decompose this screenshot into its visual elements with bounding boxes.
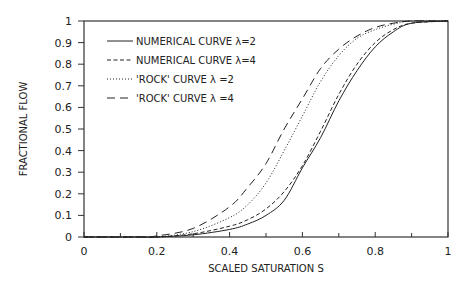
y-tick-label: 0.7 [55,80,73,93]
x-tick-label: 1 [445,245,452,258]
y-tick-label: 0.6 [55,101,73,114]
plot-border [84,21,448,237]
y-axis-label: FRACTIONAL FLOW [18,82,29,177]
fractional-flow-chart: 00.10.20.30.40.50.60.70.80.91 00.20.40.6… [0,0,473,284]
x-axis-ticks: 00.20.40.60.81 [81,232,452,258]
y-tick-label: 0.2 [55,188,73,201]
legend-label: 'ROCK' CURVE λ =4 [136,93,234,104]
y-axis-ticks: 00.10.20.30.40.50.60.70.80.91 [55,15,85,244]
y-tick-label: 0 [65,231,72,244]
x-axis-label: SCALED SATURATION S [208,263,324,274]
legend-label: 'ROCK' CURVE λ =2 [136,74,234,85]
legend: NUMERICAL CURVE λ=2NUMERICAL CURVE λ=4'R… [107,36,256,104]
plot-frame [84,21,448,237]
y-tick-label: 1 [65,15,72,28]
curves [84,21,448,238]
y-tick-label: 0.5 [55,123,73,136]
y-tick-label: 0.1 [55,209,73,222]
y-tick-label: 0.9 [55,37,73,50]
x-tick-label: 0.8 [366,245,384,258]
curve-solid [84,21,448,237]
y-tick-label: 0.4 [55,145,73,158]
curve-dotted [84,21,448,238]
legend-label: NUMERICAL CURVE λ=4 [136,55,256,66]
y-tick-label: 0.8 [55,58,73,71]
x-tick-label: 0.4 [221,245,239,258]
y-tick-label: 0.3 [55,166,73,179]
curve-short-dash [84,21,448,237]
legend-label: NUMERICAL CURVE λ=2 [136,36,256,47]
x-tick-label: 0.2 [148,245,166,258]
x-tick-label: 0 [81,245,88,258]
x-tick-label: 0.6 [294,245,312,258]
curve-long-dash [84,21,448,237]
